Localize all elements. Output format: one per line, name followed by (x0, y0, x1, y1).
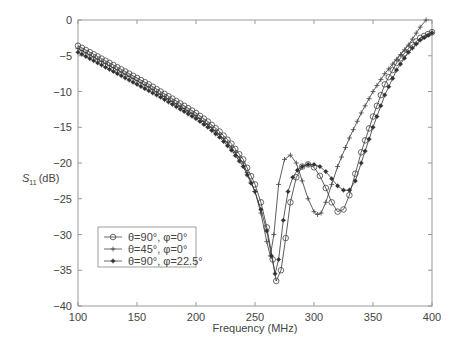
y-tick-label: −20 (53, 157, 72, 169)
s11-line-chart: 0−5−10−15−20−25−30−35−40 100150200250300… (0, 0, 463, 355)
x-tick-label: 400 (423, 311, 441, 323)
x-tick-label: 350 (364, 311, 382, 323)
y-tick-label: −25 (53, 193, 72, 205)
y-tick-label: 0 (66, 14, 72, 26)
y-tick-label: −30 (53, 229, 72, 241)
y-tick-label: −10 (53, 86, 72, 98)
y-tick-label: −35 (53, 264, 72, 276)
legend-label: θ=90°, φ=22.5° (128, 255, 203, 267)
x-tick-label: 100 (69, 311, 87, 323)
y-tick-label: −5 (59, 50, 72, 62)
legend-label: θ=90°, φ=0° (128, 231, 187, 243)
y-axis-label-unit: (dB) (39, 172, 60, 184)
legend-label: θ=45°, φ=0° (128, 243, 187, 255)
y-axis-label: S11(dB) (22, 172, 59, 186)
y-axis-label-sub: 11 (29, 179, 36, 186)
x-axis-label: Frequency (MHz) (213, 322, 298, 334)
y-tick-label: −15 (53, 121, 72, 133)
legend: θ=90°, φ=0°θ=45°, φ=0°θ=90°, φ=22.5° (98, 227, 203, 267)
x-tick-label: 300 (305, 311, 323, 323)
x-tick-label: 200 (187, 311, 205, 323)
x-tick-label: 150 (128, 311, 146, 323)
